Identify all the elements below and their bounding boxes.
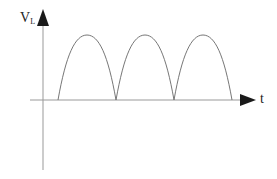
y-axis-label-main: V: [20, 10, 30, 25]
y-axis-arrow-icon: [37, 9, 49, 26]
x-axis-arrow-icon: [240, 94, 256, 106]
y-axis-label: VL: [20, 10, 35, 26]
x-axis-label: t: [260, 91, 264, 107]
waveform-diagram: [0, 0, 277, 179]
y-axis-label-subscript: L: [30, 17, 35, 26]
waveform-curve: [58, 35, 232, 100]
